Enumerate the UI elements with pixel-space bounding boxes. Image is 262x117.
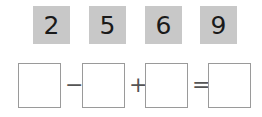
number-tile-6[interactable]: 6	[145, 6, 182, 44]
number-tile-9[interactable]: 9	[200, 6, 237, 44]
minus-sign: −	[65, 71, 83, 99]
answer-box-1[interactable]	[18, 63, 61, 108]
number-tile-2[interactable]: 2	[33, 6, 70, 44]
number-tile-5[interactable]: 5	[89, 6, 126, 44]
answer-box-2[interactable]	[82, 63, 125, 108]
answer-box-4[interactable]	[208, 63, 251, 108]
answer-box-3[interactable]	[145, 63, 188, 108]
